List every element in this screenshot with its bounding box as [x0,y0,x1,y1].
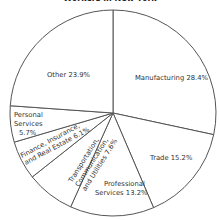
label-manufacturing: Manufacturing 28.4% [135,74,209,82]
label-professional-line2: Services 13.2% [95,189,148,197]
pie-chart: Manufacturing 28.4% Trade 15.2% Professi… [0,0,220,220]
label-personal-line3: 5.7% [19,129,37,137]
label-professional-line1: Professional [104,180,145,188]
label-other: Other 23.9% [47,71,91,79]
pie-slice-other [10,10,113,113]
label-personal-line2: Services [14,120,43,128]
label-personal-line1: Personal [14,111,43,119]
label-trade: Trade 15.2% [149,154,193,162]
